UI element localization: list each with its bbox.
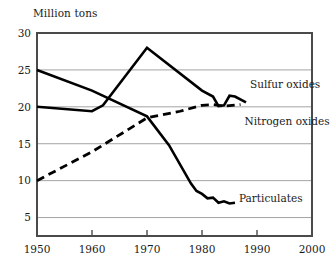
series-line-sulfur-oxides [37,48,246,111]
pollutant-emissions-line-chart: Million tons 30252015105 195019601970198… [0,0,332,267]
x-tick-label-1980: 1980 [189,243,216,255]
y-tick-label-30: 30 [18,27,31,39]
series-label-particulates: Particulates [239,192,303,204]
x-axis-tick-labels: 195019601970198019902000 [24,243,326,255]
x-tick-label-1950: 1950 [24,243,51,255]
y-tick-label-15: 15 [18,138,31,150]
plot-frame-border [37,33,312,236]
chart-plot-area: 30252015105 195019601970198019902000 Sul… [0,0,332,267]
y-tick-label-25: 25 [18,64,31,76]
y-tick-label-20: 20 [18,101,31,113]
series-label-nitrogen-oxides: Nitrogen oxides [245,115,330,127]
series-line-nitrogen-oxides [37,105,241,181]
series-line-particulates [37,70,235,204]
y-axis-tick-labels: 30252015105 [18,27,31,224]
series-inline-labels: Sulfur oxidesNitrogen oxidesParticulates [239,78,330,204]
x-tick-label-2000: 2000 [299,243,326,255]
series-label-sulfur-oxides: Sulfur oxides [250,78,320,90]
y-tick-label-10: 10 [18,174,31,186]
x-tick-label-1960: 1960 [79,243,106,255]
x-tick-label-1970: 1970 [134,243,161,255]
y-tick-label-5: 5 [24,211,31,223]
data-series-lines [37,48,246,204]
x-tick-label-1990: 1990 [244,243,271,255]
